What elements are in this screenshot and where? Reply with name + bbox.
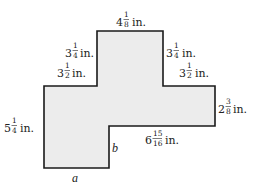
label-right-step-width: 3 1 2 in. xyxy=(179,61,209,80)
svg-text:1: 1 xyxy=(174,41,179,50)
svg-text:in.: in. xyxy=(72,67,86,80)
svg-text:5: 5 xyxy=(4,122,11,135)
svg-text:1: 1 xyxy=(187,61,192,70)
svg-text:in.: in. xyxy=(132,16,146,29)
svg-text:16: 16 xyxy=(153,139,163,148)
svg-text:2: 2 xyxy=(218,103,225,116)
svg-text:in.: in. xyxy=(233,103,247,116)
svg-text:in.: in. xyxy=(80,47,94,60)
svg-text:2: 2 xyxy=(65,71,70,80)
svg-text:3: 3 xyxy=(57,67,64,80)
label-bottom-right-width: 6 15 16 in. xyxy=(145,129,179,148)
svg-text:in.: in. xyxy=(165,134,179,147)
svg-text:3: 3 xyxy=(65,47,72,60)
label-top-width: 4 1 8 in. xyxy=(116,10,146,29)
svg-text:1: 1 xyxy=(73,41,78,50)
svg-text:4: 4 xyxy=(174,51,179,60)
svg-text:8: 8 xyxy=(226,107,231,116)
svg-text:2: 2 xyxy=(187,71,192,80)
svg-text:in.: in. xyxy=(20,122,34,135)
svg-text:1: 1 xyxy=(65,61,70,70)
label-left-step-width: 3 1 2 in. xyxy=(57,61,86,80)
label-right-upper-height: 3 1 4 in. xyxy=(166,41,196,60)
svg-text:3: 3 xyxy=(179,67,186,80)
svg-text:in.: in. xyxy=(195,67,209,80)
label-right-height: 2 3 8 in. xyxy=(218,97,247,116)
label-left-upper-height: 3 1 4 in. xyxy=(65,41,94,60)
svg-text:1: 1 xyxy=(124,10,129,19)
svg-text:in.: in. xyxy=(182,47,196,60)
label-notch-b: b xyxy=(112,141,118,155)
svg-text:4: 4 xyxy=(12,126,17,135)
svg-text:1: 1 xyxy=(12,116,17,125)
svg-text:4: 4 xyxy=(116,16,123,29)
label-left-height: 5 1 4 in. xyxy=(4,116,34,135)
svg-text:8: 8 xyxy=(124,20,129,29)
svg-text:15: 15 xyxy=(153,129,163,138)
svg-text:3: 3 xyxy=(166,47,173,60)
composite-figure-diagram: 4 1 8 in. 3 1 4 in. 3 1 2 in. 3 1 4 in. … xyxy=(0,0,254,187)
svg-text:6: 6 xyxy=(145,134,152,147)
svg-text:4: 4 xyxy=(73,51,78,60)
svg-text:3: 3 xyxy=(226,97,231,106)
label-bottom-a: a xyxy=(72,171,78,185)
